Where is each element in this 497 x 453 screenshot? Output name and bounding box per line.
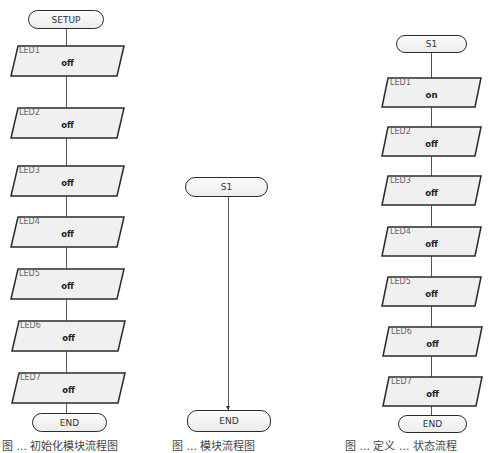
step-label: LED4 (19, 217, 40, 226)
step-label: LED7 (20, 373, 41, 382)
io-step-led4: LED4 off (10, 216, 125, 248)
figure-caption: 图 ... 初始化模块流程图 (2, 437, 118, 453)
io-step-led6: LED6 off (382, 326, 483, 357)
start-terminator: S1 (396, 35, 467, 53)
step-label: LED2 (19, 108, 40, 117)
start-terminator: S1 (185, 177, 268, 197)
figure-caption: 图 ... 模块流程图 (172, 437, 255, 453)
step-value: off (11, 385, 126, 395)
step-label: LED6 (20, 321, 41, 330)
start-terminator: SETUP (28, 10, 104, 29)
io-step-led7: LED7 off (11, 372, 126, 404)
io-step-led2: LED2 off (381, 126, 482, 157)
end-terminator: END (187, 410, 271, 432)
start-label: S1 (426, 39, 437, 49)
io-step-led6: LED6 off (11, 320, 126, 352)
step-value: off (10, 229, 125, 239)
step-label: LED3 (390, 176, 411, 185)
io-step-led2: LED2 off (10, 107, 125, 139)
step-value: off (382, 389, 483, 399)
figure-caption: 图 ... 定义 ... 状态流程 (345, 437, 457, 453)
io-step-led5: LED5 off (10, 268, 125, 300)
step-label: LED4 (390, 227, 411, 236)
step-value: off (381, 139, 482, 149)
io-step-led1: LED1 off (10, 45, 125, 77)
step-label: LED6 (391, 327, 412, 336)
end-terminator: END (398, 415, 467, 433)
step-label: LED7 (391, 377, 412, 386)
start-label: SETUP (52, 15, 81, 25)
step-value: off (11, 333, 126, 343)
step-value: off (382, 339, 483, 349)
step-value: off (381, 289, 482, 299)
io-step-led3: LED3 off (10, 165, 125, 197)
step-value: off (10, 120, 125, 130)
io-step-led1: LED1 on (381, 77, 482, 108)
step-value: off (10, 58, 125, 68)
connector (228, 196, 229, 410)
step-label: LED5 (390, 277, 411, 286)
io-step-led7: LED7 off (382, 376, 483, 407)
step-label: LED1 (390, 78, 411, 87)
io-step-led3: LED3 off (381, 175, 482, 206)
step-label: LED3 (19, 166, 40, 175)
end-label: END (60, 418, 79, 428)
step-value: on (381, 90, 482, 100)
io-step-led5: LED5 off (381, 276, 482, 307)
step-value: off (381, 188, 482, 198)
io-step-led4: LED4 off (381, 226, 482, 257)
end-label: END (423, 419, 442, 429)
step-label: LED5 (19, 269, 40, 278)
step-value: off (381, 239, 482, 249)
start-label: S1 (221, 182, 232, 192)
end-terminator: END (32, 413, 107, 432)
end-label: END (219, 416, 238, 426)
step-label: LED2 (390, 127, 411, 136)
step-value: off (10, 178, 125, 188)
step-label: LED1 (19, 46, 40, 55)
step-value: off (10, 281, 125, 291)
